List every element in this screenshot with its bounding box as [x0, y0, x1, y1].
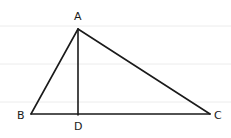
segment-ab: [31, 29, 78, 114]
ruled-lines: [0, 26, 231, 102]
diagram-svg: A B C D: [0, 0, 231, 138]
label-c: C: [214, 109, 222, 122]
label-a: A: [74, 10, 82, 23]
segment-ac: [78, 29, 210, 114]
label-b: B: [17, 109, 25, 122]
label-d: D: [74, 120, 82, 133]
triangle-diagram: A B C D: [0, 0, 231, 138]
